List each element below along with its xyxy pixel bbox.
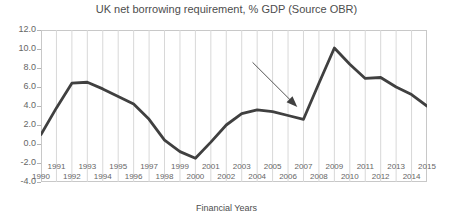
x-tick-label: 2009 bbox=[319, 162, 349, 171]
x-tick-label: 2015 bbox=[412, 162, 442, 171]
x-tick-label: 2014 bbox=[397, 172, 427, 181]
x-tick-label: 1999 bbox=[165, 162, 195, 171]
x-tick-label: 1990 bbox=[26, 172, 56, 181]
x-tick-label: 2010 bbox=[335, 172, 365, 181]
x-tick-label: 1992 bbox=[57, 172, 87, 181]
x-tick-label: 1996 bbox=[119, 172, 149, 181]
chart-title: UK net borrowing requirement, % GDP (Sou… bbox=[0, 3, 453, 15]
x-tick-label: 2006 bbox=[273, 172, 303, 181]
y-tick-label: 4.0 bbox=[2, 100, 36, 110]
x-tick-label: 2013 bbox=[381, 162, 411, 171]
x-tick-label: 1998 bbox=[150, 172, 180, 181]
x-tick-label: 1995 bbox=[103, 162, 133, 171]
x-tick-label: 2004 bbox=[242, 172, 272, 181]
y-tick-label: 2.0 bbox=[2, 119, 36, 129]
y-tick-mark bbox=[37, 182, 41, 183]
x-tick-label: 2001 bbox=[196, 162, 226, 171]
x-tick-label: 2007 bbox=[288, 162, 318, 171]
x-tick-label: 2011 bbox=[350, 162, 380, 171]
x-tick-label: 2000 bbox=[180, 172, 210, 181]
y-tick-label: 6.0 bbox=[2, 81, 36, 91]
trough-pointer-arrow-shaft bbox=[253, 62, 291, 100]
x-tick-label: 1994 bbox=[88, 172, 118, 181]
x-axis-title: Financial Years bbox=[0, 203, 453, 213]
y-tick-label: 8.0 bbox=[2, 62, 36, 72]
plot-area-wrapper bbox=[41, 30, 427, 182]
chart-figure: UK net borrowing requirement, % GDP (Sou… bbox=[0, 0, 453, 222]
x-tick-label: 2003 bbox=[227, 162, 257, 171]
y-tick-label: -2.0 bbox=[2, 157, 36, 167]
x-tick-label: 2012 bbox=[366, 172, 396, 181]
x-tick-label: 2002 bbox=[211, 172, 241, 181]
x-tick-label: 2008 bbox=[304, 172, 334, 181]
y-tick-label: 12.0 bbox=[2, 24, 36, 34]
x-tick-label: 1993 bbox=[72, 162, 102, 171]
y-tick-label: 10.0 bbox=[2, 43, 36, 53]
y-tick-label: 0.0 bbox=[2, 138, 36, 148]
x-tick-label: 2005 bbox=[258, 162, 288, 171]
annotation-layer bbox=[41, 30, 427, 182]
x-tick-label: 1997 bbox=[134, 162, 164, 171]
x-tick-label: 1991 bbox=[41, 162, 71, 171]
